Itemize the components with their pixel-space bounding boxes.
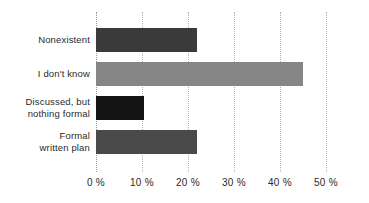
category-label-i-dont-know: I don't know <box>4 68 90 80</box>
bar-nonexistent <box>96 28 197 52</box>
category-label-line2: written plan <box>4 142 90 154</box>
category-label-line1: Nonexistent <box>38 34 90 45</box>
x-tick-label-40: 40 % <box>257 176 303 189</box>
bar-row-discussed-but-nothing-formal <box>96 96 326 120</box>
bar-chart: Nonexistent I don't know Discussed, but … <box>0 0 369 203</box>
category-label-line1: Discussed, but <box>4 96 90 108</box>
category-label-formal-written-plan: Formal written plan <box>4 130 90 153</box>
category-label-line1: I don't know <box>38 68 90 79</box>
x-tick-label-0: 0 % <box>73 176 119 189</box>
bar-discussed-but-nothing-formal <box>96 96 144 120</box>
x-axis: 0 % 10 % 20 % 30 % 40 % 50 % <box>0 176 369 196</box>
bar-row-formal-written-plan <box>96 130 326 154</box>
x-tick-label-20: 20 % <box>165 176 211 189</box>
category-label-discussed-but-nothing-formal: Discussed, but nothing formal <box>4 96 90 119</box>
gridline-50 <box>326 12 328 172</box>
x-tick-label-30: 30 % <box>211 176 257 189</box>
plot-area <box>96 12 326 172</box>
bar-row-i-dont-know <box>96 62 326 86</box>
bar-formal-written-plan <box>96 130 197 154</box>
category-label-nonexistent: Nonexistent <box>4 34 90 46</box>
bar-i-dont-know <box>96 62 303 86</box>
bar-row-nonexistent <box>96 28 326 52</box>
category-label-line2: nothing formal <box>4 108 90 120</box>
x-tick-label-50: 50 % <box>303 176 349 189</box>
category-label-line1: Formal <box>4 130 90 142</box>
x-tick-label-10: 10 % <box>119 176 165 189</box>
